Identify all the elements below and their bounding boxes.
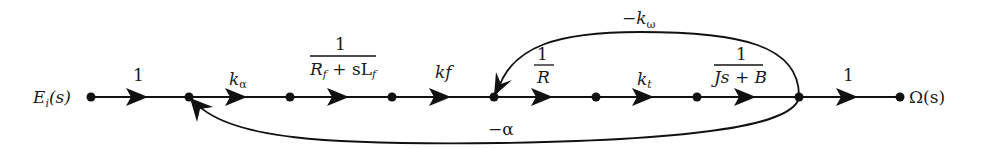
gain-branch-2: 1 Rf + sLf (309, 34, 378, 81)
feedback-upper-arrowhead-icon (494, 72, 512, 96)
gain-branch-1: kα (229, 69, 247, 91)
gain-branch-3: kf (435, 62, 454, 82)
input-label: Ei(s) (32, 87, 71, 110)
node-3 (388, 93, 397, 102)
svg-text:Rf + sLf: Rf + sLf (309, 59, 378, 81)
node-1 (185, 93, 194, 102)
svg-text:Js + B: Js + B (711, 67, 767, 87)
node-output (896, 93, 905, 102)
gain-branch-4: 1 R (534, 44, 554, 87)
node-4 (490, 93, 499, 102)
output-label: Ω(s) (909, 87, 945, 107)
node-input (87, 93, 96, 102)
gain-feedback-lower: −α (488, 119, 514, 139)
gain-feedback-upper: −kω (622, 8, 656, 31)
node-7 (795, 93, 804, 102)
signal-flow-graph: Ei(s) Ω(s) 1 kα 1 Rf + sLf kf 1 R kt 1 J… (0, 0, 990, 148)
diagram-svg: Ei(s) Ω(s) 1 kα 1 Rf + sLf kf 1 R kt 1 J… (0, 0, 990, 148)
svg-text:R: R (536, 67, 550, 87)
gain-branch-5: kt (637, 69, 652, 91)
gain-branch-7: 1 (843, 65, 854, 85)
svg-text:1: 1 (736, 44, 747, 64)
node-2 (286, 93, 295, 102)
gain-branch-6: 1 Js + B (711, 44, 767, 87)
gain-branch-0: 1 (133, 65, 144, 85)
svg-text:1: 1 (537, 44, 548, 64)
feedback-lower-arrowhead-icon (190, 98, 213, 122)
node-6 (693, 93, 702, 102)
node-5 (592, 93, 601, 102)
svg-text:1: 1 (335, 34, 346, 54)
